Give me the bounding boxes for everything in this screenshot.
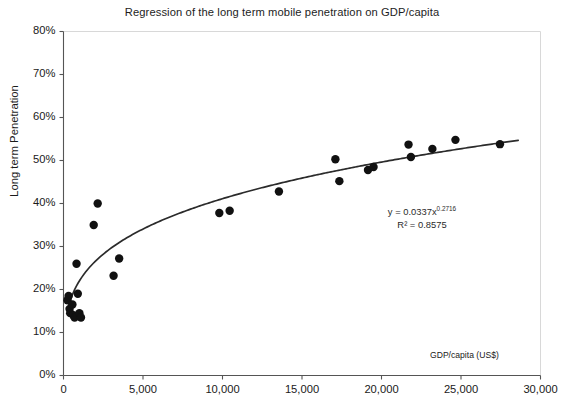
data-point <box>369 163 377 171</box>
data-point <box>72 260 80 268</box>
x-axis-tick-label: 20,000 <box>347 383 417 395</box>
x-axis-tick-label: 10,000 <box>188 383 258 395</box>
x-axis-tick-label: 0 <box>29 383 99 395</box>
data-point <box>225 207 233 215</box>
data-point <box>93 199 101 207</box>
data-point <box>331 155 339 163</box>
y-axis-tick-label: 50% <box>12 153 56 165</box>
data-point <box>451 136 459 144</box>
data-point <box>74 290 82 298</box>
x-axis-tick-label: 30,000 <box>506 383 564 395</box>
data-point <box>335 177 343 185</box>
data-point <box>407 153 415 161</box>
x-axis-title: GDP/capita (US$) <box>430 350 499 360</box>
y-axis-tick-label: 0% <box>12 368 56 380</box>
data-point <box>68 300 76 308</box>
data-point <box>77 313 85 321</box>
chart-title: Regression of the long term mobile penet… <box>0 6 564 18</box>
data-point <box>404 140 412 148</box>
regression-equation-base: y = 0.0337x <box>388 206 437 217</box>
data-point <box>215 209 223 217</box>
data-point <box>90 221 98 229</box>
y-axis-tick-label: 20% <box>12 282 56 294</box>
x-axis-tick-label: 5,000 <box>108 383 178 395</box>
y-axis-tick-label: 70% <box>12 67 56 79</box>
data-point <box>275 187 283 195</box>
y-axis-tick-label: 40% <box>12 196 56 208</box>
data-point <box>109 272 117 280</box>
x-axis-tick-label: 15,000 <box>267 383 337 395</box>
plot-area <box>0 0 564 403</box>
data-point <box>428 145 436 153</box>
regression-equation-line: y = 0.0337x0.2716 <box>352 203 492 219</box>
regression-equation-exponent: 0.2716 <box>437 205 457 212</box>
chart-container: Regression of the long term mobile penet… <box>0 0 564 403</box>
y-axis-tick-label: 30% <box>12 239 56 251</box>
x-axis-tick-label: 25,000 <box>426 383 496 395</box>
data-point <box>64 292 72 300</box>
y-axis-tick-label: 10% <box>12 325 56 337</box>
regression-equation-annotation: y = 0.0337x0.2716 R² = 0.8575 <box>352 203 492 231</box>
y-axis-tick-label: 80% <box>12 24 56 36</box>
y-axis-tick-label: 60% <box>12 110 56 122</box>
regression-r-squared: R² = 0.8575 <box>352 219 492 232</box>
data-point <box>496 140 504 148</box>
data-point <box>115 254 123 262</box>
